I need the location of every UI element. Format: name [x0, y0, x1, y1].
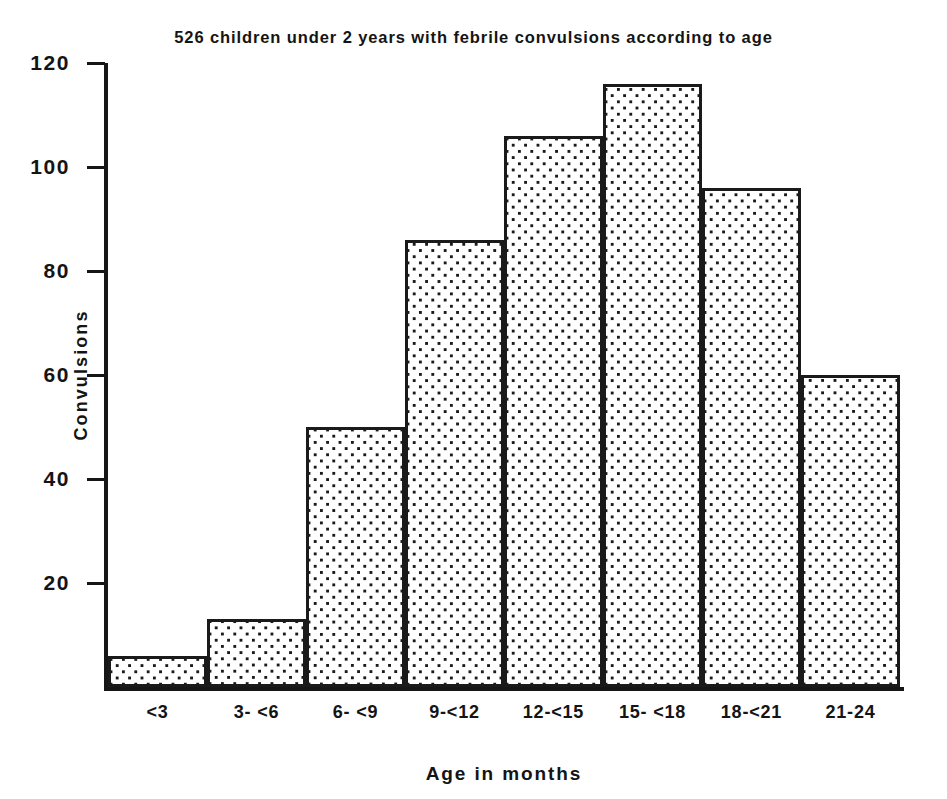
y-tick-mark — [87, 270, 105, 273]
y-tick-mark — [87, 166, 105, 169]
bar — [603, 84, 702, 687]
x-tick-label: 6- <9 — [306, 703, 405, 721]
x-tick-label: 21-24 — [801, 703, 900, 721]
y-tick-mark — [87, 62, 105, 65]
bar — [405, 240, 504, 687]
bar — [801, 375, 900, 687]
y-tick-mark — [87, 374, 105, 377]
x-tick-label: 9-<12 — [405, 703, 504, 721]
x-tick-label: 12-<15 — [504, 703, 603, 721]
bar — [108, 656, 207, 687]
x-axis-title: Age in months — [108, 763, 900, 785]
y-tick-label: 60 — [0, 364, 70, 385]
chart-title: 526 children under 2 years with febrile … — [0, 28, 947, 47]
y-tick-label: 120 — [0, 52, 70, 73]
x-tick-label: <3 — [108, 703, 207, 721]
bar — [504, 136, 603, 687]
bar — [702, 188, 801, 687]
x-tick-label: 18-<21 — [702, 703, 801, 721]
y-tick-label: 20 — [0, 572, 70, 593]
y-tick-mark — [87, 478, 105, 481]
y-tick-mark — [87, 582, 105, 585]
histogram-figure: 526 children under 2 years with febrile … — [0, 0, 947, 799]
plot-area: Convulsions 20406080100120 <33- <66- <99… — [108, 63, 900, 687]
y-tick-label: 80 — [0, 260, 70, 281]
x-tick-label: 3- <6 — [207, 703, 306, 721]
bar — [207, 619, 306, 687]
x-tick-label: 15- <18 — [603, 703, 702, 721]
y-tick-label: 40 — [0, 468, 70, 489]
bar — [306, 427, 405, 687]
y-tick-label: 100 — [0, 156, 70, 177]
x-axis-line — [104, 687, 904, 691]
